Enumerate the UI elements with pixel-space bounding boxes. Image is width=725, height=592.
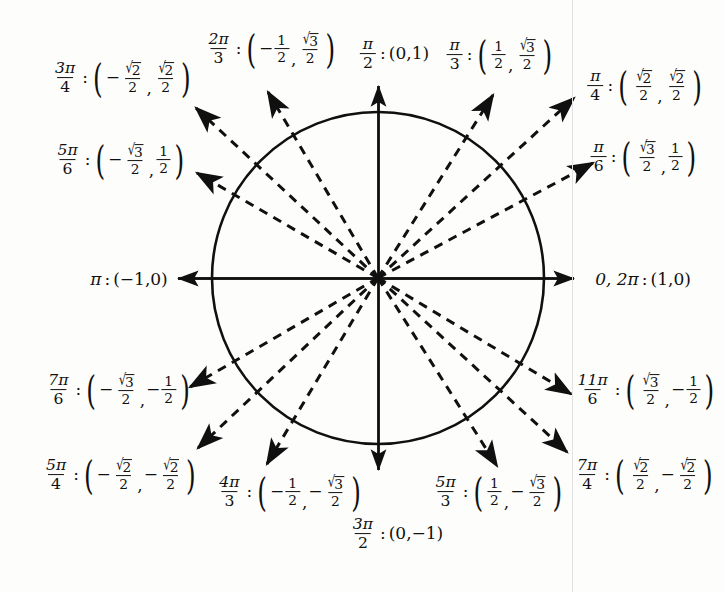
fraction-denominator: 4 [579, 475, 595, 493]
angle-measure: 5π4 [43, 457, 69, 493]
fraction-denominator: 2 [128, 161, 143, 177]
colon-separator: : [233, 41, 245, 58]
fraction: √22 [159, 458, 183, 492]
y-coordinate: √32 [514, 38, 540, 72]
coordinate-pair: (0,1) [389, 46, 429, 63]
fraction-numerator: √3 [298, 32, 322, 49]
colon-separator: : [377, 46, 389, 63]
fraction-numerator: 2π [205, 31, 231, 48]
radical-glyph: √ [643, 372, 650, 389]
coordinate-body: −12,−√32 [269, 475, 349, 509]
y-coordinate: −12 [146, 374, 177, 406]
fraction-numerator: 1 [156, 144, 171, 159]
angle-label-content: 5π3:(12,−√32) [431, 474, 564, 510]
left-paren: ( [473, 478, 483, 507]
fraction-numerator: π [447, 37, 463, 54]
x-coordinate: 12 [490, 39, 507, 71]
fraction-denominator: 2 [303, 50, 318, 66]
radicand: 3 [125, 374, 135, 389]
minus-sign: − [97, 467, 111, 484]
minus-sign: − [661, 467, 675, 484]
fraction-numerator: 3π [350, 516, 376, 533]
fraction-numerator: √3 [123, 143, 147, 160]
x-coordinate: −√32 [108, 143, 148, 177]
fraction-numerator: √2 [112, 458, 136, 475]
minus-sign: − [144, 467, 158, 484]
fraction-denominator: 2 [163, 476, 178, 492]
fraction-denominator: 2 [633, 476, 648, 492]
radical-sign: √2 [679, 459, 697, 474]
left-paren: ( [615, 461, 625, 490]
minus-sign: − [671, 382, 685, 399]
fraction-numerator: √3 [639, 373, 663, 390]
fraction-denominator: 3 [211, 49, 227, 67]
colon-separator: : [464, 47, 476, 64]
left-paren: ( [84, 461, 94, 490]
y-coordinate: 12 [155, 144, 172, 176]
angle-measure: 2π3 [205, 31, 231, 67]
radicand: 3 [526, 39, 536, 54]
fraction-denominator: 2 [669, 87, 684, 103]
fraction-numerator: 1 [161, 374, 176, 389]
radical-glyph: √ [520, 37, 527, 54]
colon-separator: : [601, 467, 613, 484]
fraction-denominator: 3 [438, 492, 454, 510]
fraction: √22 [629, 458, 653, 492]
coordinate-pair: (−√22,−√22) [82, 458, 198, 492]
fraction: 12 [156, 144, 171, 176]
radical-sign: √3 [327, 476, 345, 491]
radical-glyph: √ [128, 142, 135, 159]
radical-glyph: √ [530, 474, 537, 491]
right-paren: ) [705, 376, 715, 405]
fraction-denominator: 2 [328, 493, 343, 509]
coordinate-comma: , [653, 477, 660, 494]
coordinate-pair: (√32,12) [620, 140, 699, 174]
fraction: √32 [298, 32, 322, 66]
angle-label-content: π6:(√32,12) [590, 139, 699, 175]
angle-label-content: π3:(12,√32) [446, 37, 555, 73]
x-coordinate: −√22 [97, 458, 137, 492]
coordinate-pair: (−√32,12) [93, 143, 186, 177]
x-coordinate: √32 [634, 140, 660, 174]
fraction-denominator: 6 [585, 390, 601, 408]
radicand: 3 [650, 374, 660, 389]
fraction-numerator: √3 [515, 38, 539, 55]
unit-circle-page: 0, 2π:(1,0)π6:(√32,12)π4:(√22,√22)π3:(12… [0, 0, 725, 592]
y-coordinate: −12 [671, 374, 702, 406]
coordinate-body: √32,−12 [637, 373, 703, 407]
colon-separator: : [79, 70, 91, 87]
fraction-denominator: 2 [487, 492, 502, 508]
fraction: √22 [665, 69, 689, 103]
colon-separator: : [612, 382, 624, 399]
angle-label-content: 7π4:(√22,−√22) [573, 457, 715, 493]
fraction-numerator: √3 [324, 475, 348, 492]
left-paren: ( [625, 376, 635, 405]
angle-measure: 7π4 [574, 457, 600, 493]
right-paren: ) [180, 376, 190, 405]
coordinate-pair: (12,−√32) [471, 475, 564, 509]
fraction-numerator: π [591, 139, 607, 156]
fraction-numerator: √2 [121, 61, 145, 78]
fraction-numerator: √2 [665, 69, 689, 86]
radicand: 3 [134, 144, 144, 159]
coordinate-comma: , [301, 494, 308, 511]
radicand: 3 [536, 476, 546, 491]
radical-sign: √2 [632, 459, 650, 474]
radicand: 2 [170, 459, 180, 474]
coordinate-pair: (0,−1) [389, 526, 444, 543]
fraction: 12 [487, 476, 502, 508]
fraction-numerator: √2 [676, 458, 700, 475]
right-paren: ) [553, 478, 563, 507]
minus-sign: − [308, 484, 322, 501]
fraction-numerator: 1 [491, 39, 506, 54]
fraction-numerator: 7π [574, 457, 600, 474]
radical-sign: √3 [642, 374, 660, 389]
angle-measure: π4 [587, 68, 603, 104]
coordinate-pair: (−1,0) [113, 271, 168, 288]
fraction-denominator: 2 [643, 391, 658, 407]
fraction-numerator: √3 [635, 140, 659, 157]
fraction-numerator: 1 [686, 374, 701, 389]
radical-glyph: √ [639, 139, 646, 156]
colon-separator: : [73, 382, 85, 399]
coordinate-pair: (1,0) [651, 271, 691, 288]
